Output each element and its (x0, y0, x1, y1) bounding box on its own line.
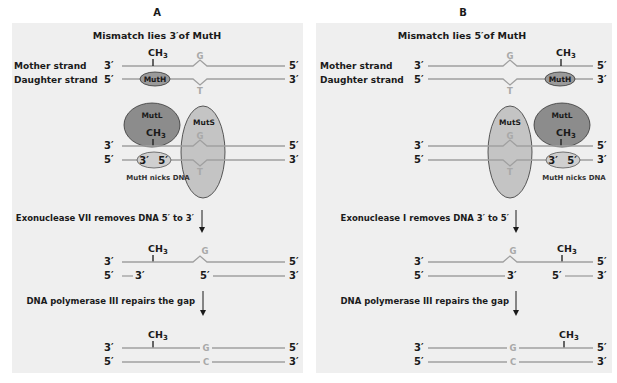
daughter-end-left: 5′ (104, 74, 114, 85)
gap-daughter-end-left: 5′ (104, 270, 114, 281)
panel-b-title: Mismatch lies 5′of MutH (398, 30, 527, 41)
daughter-end-right: 3′ (289, 74, 299, 85)
gap-end-5prime: 5′ (200, 270, 210, 281)
repaired-base-top: G (510, 343, 517, 353)
mismatch-base-bottom: T (197, 86, 203, 96)
daughter-strand-label: Daughter strand (14, 75, 98, 85)
panel-a-title: Mismatch lies 3′of MutH (93, 30, 222, 41)
complex-daughter-end-left: 5′ (104, 154, 114, 165)
panel-a-letter: A (153, 7, 161, 18)
complex-base-top: G (507, 131, 514, 141)
panel-b: B Mismatch lies 5′of MutH Mother strand … (316, 7, 612, 373)
mismatch-base-bottom: T (507, 86, 513, 96)
nick-end-3prime: 3′ (548, 155, 558, 166)
daughter-strand-label: Daughter strand (320, 75, 404, 85)
mutl-protein (124, 103, 180, 147)
complex-base-bottom: T (197, 167, 203, 177)
muts-label: MutS (193, 118, 215, 127)
repaired-daughter-end-left: 5′ (104, 356, 114, 367)
repaired-base-bottom: C (203, 357, 209, 367)
mismatch-base-top: G (197, 51, 204, 61)
gap-base-top: G (202, 246, 209, 256)
repaired-mother-end-right: 5′ (597, 342, 607, 353)
repaired-mother-end-left: 3′ (414, 342, 424, 353)
repaired-base-top: G (203, 343, 210, 353)
gap-daughter-end-right: 3′ (289, 270, 299, 281)
complex-daughter-end-right: 3′ (289, 154, 299, 165)
mother-end-left: 3′ (104, 60, 114, 71)
daughter-end-left: 5′ (414, 74, 424, 85)
nick-caption: MutH nicks DNA (542, 174, 606, 182)
step1-label: Exonuclease I removes DNA 3′ to 5′ (341, 213, 510, 223)
gap-mother-end-left: 3′ (104, 256, 114, 267)
mother-end-right: 5′ (597, 60, 607, 71)
repaired-daughter-end-right: 3′ (597, 356, 607, 367)
complex-daughter-end-left: 5′ (414, 154, 424, 165)
gap-end-3prime: 3′ (135, 270, 145, 281)
panel-a: A Mismatch lies 3′of MutH Mother strand … (12, 7, 303, 373)
step2-label: DNA polymerase III repairs the gap (26, 296, 195, 306)
repaired-mother-end-left: 3′ (104, 342, 114, 353)
complex-mother-end-left: 3′ (414, 140, 424, 151)
mutl-label: MutL (551, 111, 572, 120)
repaired-daughter-end-left: 5′ (414, 356, 424, 367)
gap-daughter-end-right: 3′ (597, 270, 607, 281)
muth-label: MutH (549, 75, 572, 84)
muth-label: MutH (144, 75, 167, 84)
mother-strand-label: Mother strand (320, 61, 393, 71)
mutl-protein (534, 103, 590, 147)
gap-mother-end-right: 5′ (597, 256, 607, 267)
repaired-base-bottom: C (510, 357, 516, 367)
mutl-label: MutL (141, 111, 162, 120)
nick-end-5prime: 5′ (158, 155, 168, 166)
step1-label: Exonuclease VII removes DNA 5′ to 3′ (16, 213, 195, 223)
complex-mother-end-right: 5′ (597, 140, 607, 151)
gap-end-5prime: 5′ (552, 270, 562, 281)
repaired-daughter-end-right: 3′ (289, 356, 299, 367)
nick-caption: MutH nicks DNA (126, 174, 190, 182)
gap-daughter-end-left: 5′ (414, 270, 424, 281)
daughter-end-right: 3′ (597, 74, 607, 85)
complex-base-top: G (197, 131, 204, 141)
mother-strand-label: Mother strand (14, 61, 87, 71)
mismatch-base-top: G (507, 51, 514, 61)
mismatch-repair-diagram: A Mismatch lies 3′of MutH Mother strand … (0, 0, 617, 383)
mother-end-left: 3′ (414, 60, 424, 71)
complex-base-bottom: T (507, 167, 513, 177)
mother-end-right: 5′ (289, 60, 299, 71)
gap-base-top: G (510, 246, 517, 256)
muts-label: MutS (499, 118, 521, 127)
gap-mother-end-right: 5′ (289, 256, 299, 267)
nick-end-3prime: 3′ (139, 155, 149, 166)
complex-mother-end-right: 5′ (289, 140, 299, 151)
gap-mother-end-left: 3′ (414, 256, 424, 267)
panel-b-letter: B (459, 7, 467, 18)
repaired-mother-end-right: 5′ (289, 342, 299, 353)
step2-label: DNA polymerase III repairs the gap (340, 296, 509, 306)
nick-end-5prime: 5′ (567, 155, 577, 166)
complex-daughter-end-right: 3′ (597, 154, 607, 165)
complex-mother-end-left: 3′ (104, 140, 114, 151)
gap-end-3prime: 3′ (507, 270, 517, 281)
